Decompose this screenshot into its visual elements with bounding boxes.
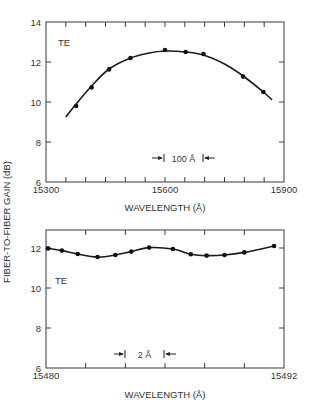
bottom-axis-ticks — [46, 230, 284, 368]
bottom-fit-curve — [48, 246, 274, 257]
y-tick-label: 12 — [30, 57, 41, 68]
figure: FIBER-TO-FIBER GAIN (dB) 68101214 153001… — [0, 0, 318, 413]
y-tick-label: 8 — [36, 137, 41, 148]
bottom-panel: 681012 1548015492 TE 2 Å WAVELENGTH (Å) — [30, 230, 297, 400]
data-point — [183, 50, 188, 55]
top-y-tick-labels: 68101214 — [30, 17, 41, 188]
top-fit-curve — [66, 51, 272, 117]
bottom-x-tick-labels: 1548015492 — [33, 370, 297, 381]
bottom-resolution-label: 2 Å — [138, 350, 152, 360]
bottom-resolution-marker: 2 Å — [114, 350, 176, 360]
x-tick-label: 15900 — [271, 184, 297, 195]
data-point — [272, 244, 277, 249]
bottom-data-points — [46, 244, 277, 260]
top-te-label: TE — [58, 37, 70, 48]
data-point — [204, 253, 209, 258]
data-point — [113, 253, 118, 258]
top-panel: 68101214 153001560015900 TE 100 Å WAVELE… — [30, 17, 297, 214]
data-point — [241, 74, 246, 79]
data-point — [129, 249, 134, 254]
top-resolution-label: 100 Å — [172, 154, 196, 164]
y-tick-label: 10 — [30, 283, 41, 294]
data-point — [147, 245, 152, 250]
data-point — [242, 250, 247, 255]
y-tick-label: 10 — [30, 97, 41, 108]
data-point — [222, 253, 227, 258]
data-point — [107, 67, 112, 72]
x-tick-label: 15300 — [33, 184, 59, 195]
data-point — [188, 252, 193, 257]
y-tick-label: 8 — [36, 323, 41, 334]
top-x-axis-label: WAVELENGTH (Å) — [125, 202, 206, 213]
top-data-points — [74, 48, 266, 109]
data-point — [75, 252, 80, 257]
bottom-y-tick-labels: 681012 — [30, 243, 41, 374]
data-point — [74, 104, 79, 109]
y-tick-label: 12 — [30, 243, 41, 254]
data-point — [163, 48, 168, 53]
x-tick-label: 15492 — [271, 370, 297, 381]
bottom-te-label: TE — [55, 275, 67, 286]
bottom-x-axis-label: WAVELENGTH (Å) — [125, 389, 206, 400]
data-point — [171, 247, 176, 252]
data-point — [128, 56, 133, 61]
x-tick-label: 15600 — [152, 184, 178, 195]
x-tick-label: 15480 — [33, 370, 59, 381]
top-axis-ticks — [46, 22, 284, 182]
y-axis-label: FIBER-TO-FIBER GAIN (dB) — [1, 161, 12, 283]
data-point — [261, 90, 266, 95]
top-x-tick-labels: 153001560015900 — [33, 184, 297, 195]
data-point — [60, 248, 65, 253]
data-point — [89, 85, 94, 90]
bottom-plot-frame — [46, 230, 284, 368]
data-point — [201, 52, 206, 57]
data-point — [46, 246, 51, 251]
top-plot-frame — [46, 22, 284, 182]
y-tick-label: 14 — [30, 17, 41, 28]
data-point — [95, 255, 100, 260]
top-resolution-marker: 100 Å — [152, 154, 215, 164]
